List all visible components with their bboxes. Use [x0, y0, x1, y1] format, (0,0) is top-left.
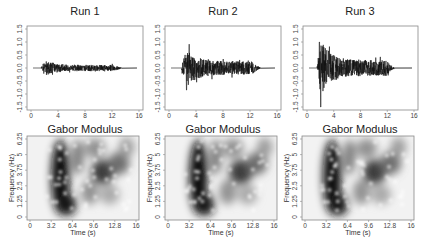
x-tick-label: 0 — [29, 112, 33, 119]
y-tick-label: 0.0 — [154, 63, 161, 72]
panel-title-gabor-3: Gabor Modulus — [322, 123, 398, 135]
y-tick-label: 0.0 — [16, 63, 23, 72]
y-tick-label: 0.0 — [292, 63, 299, 72]
panel-title-run-1: Run 1 — [70, 5, 99, 17]
x-tick-label: 8 — [221, 112, 225, 119]
x-tick-label: 3.2 — [185, 222, 194, 229]
y-tick-label: -1.0 — [154, 88, 161, 100]
y-tick-label: 2.5 — [291, 181, 298, 190]
x-tick-label: 12 — [108, 112, 116, 119]
x-tick-label: 3.2 — [47, 222, 56, 229]
y-tick-label: 0.5 — [154, 50, 161, 59]
y-tick-label: -0.5 — [154, 75, 161, 87]
x-tick-label: 16 — [270, 222, 278, 229]
y-tick-label: 0.5 — [292, 50, 299, 59]
y-tick-label: 1.25 — [291, 195, 298, 208]
x-tick-label: 4 — [56, 112, 60, 119]
gabor-modulus-plot-1: 01.252.53.7556.2503.26.49.612.816Time (s… — [8, 132, 140, 237]
x-axis-label: Time (s) — [70, 229, 95, 237]
y-tick-label: 1.0 — [154, 37, 161, 46]
x-tick-label: 16 — [132, 222, 140, 229]
x-tick-label: 3.2 — [322, 222, 331, 229]
x-tick-label: 16 — [407, 222, 415, 229]
y-tick-label: -1.5 — [154, 101, 161, 113]
x-tick-label: 0 — [305, 112, 309, 119]
x-tick-label: 12.8 — [383, 222, 396, 229]
y-tick-label: 0 — [16, 215, 23, 219]
y-tick-label: -1.0 — [16, 88, 23, 100]
x-axis-label: Time (s) — [345, 229, 370, 237]
y-tick-label: 3.75 — [154, 163, 161, 176]
x-tick-label: 0 — [167, 112, 171, 119]
y-tick-label: 1.5 — [154, 24, 161, 33]
y-tick-label: -1.0 — [292, 88, 299, 100]
x-tick-label: 6.4 — [343, 222, 352, 229]
y-axis-label: Frequency (Hz) — [283, 154, 291, 202]
x-tick-label: 9.6 — [364, 222, 373, 229]
y-tick-label: -1.5 — [292, 101, 299, 113]
x-tick-label: 0 — [28, 222, 32, 229]
x-tick-label: 12 — [384, 112, 392, 119]
panel-title-gabor-1: Gabor Modulus — [47, 123, 123, 135]
x-tick-label: 9.6 — [227, 222, 236, 229]
gabor-modulus-plot-2: 01.252.53.7556.2503.26.49.612.816Time (s… — [146, 132, 278, 237]
y-tick-label: 5 — [154, 152, 161, 156]
y-axis-label: Frequency (Hz) — [8, 154, 16, 202]
y-tick-label: 6.25 — [291, 132, 298, 145]
y-tick-label: 1.5 — [292, 24, 299, 33]
y-tick-label: 1.5 — [16, 24, 23, 33]
x-tick-label: 16 — [410, 112, 418, 119]
x-tick-label: 12 — [246, 112, 254, 119]
figure: Run 1 Run 2 Run 3 Gabor Modulus Gabor Mo… — [0, 0, 435, 246]
y-tick-label: 3.75 — [291, 163, 298, 176]
waveform-plot-1: -1.5-1.0-0.50.00.51.01.50481216 — [16, 24, 143, 119]
panel-title-run-2: Run 2 — [208, 5, 237, 17]
x-tick-label: 8 — [83, 112, 87, 119]
waveform-panels: -1.5-1.0-0.50.00.51.01.50481216-1.5-1.0-… — [16, 24, 418, 119]
x-tick-label: 6.4 — [206, 222, 215, 229]
y-tick-label: -0.5 — [16, 75, 23, 87]
y-tick-label: 0 — [291, 215, 298, 219]
y-tick-label: 0.5 — [16, 50, 23, 59]
x-tick-label: 12.8 — [246, 222, 259, 229]
x-tick-label: 8 — [359, 112, 363, 119]
y-tick-label: 1.0 — [292, 37, 299, 46]
x-axis-label: Time (s) — [208, 229, 233, 237]
y-tick-label: 1.0 — [16, 37, 23, 46]
y-tick-label: 6.25 — [16, 132, 23, 145]
y-tick-label: 1.25 — [154, 195, 161, 208]
x-tick-label: 4 — [332, 112, 336, 119]
x-tick-label: 16 — [273, 112, 281, 119]
y-tick-label: -0.5 — [292, 75, 299, 87]
x-tick-label: 6.4 — [68, 222, 77, 229]
x-tick-label: 12.8 — [108, 222, 121, 229]
y-tick-label: 0 — [154, 215, 161, 219]
x-tick-label: 0 — [166, 222, 170, 229]
y-tick-label: 2.5 — [16, 181, 23, 190]
waveform-plot-2: -1.5-1.0-0.50.00.51.01.50481216 — [154, 24, 281, 119]
y-tick-label: -1.5 — [16, 101, 23, 113]
y-tick-label: 1.25 — [16, 195, 23, 208]
y-tick-label: 6.25 — [154, 132, 161, 145]
y-tick-label: 2.5 — [154, 181, 161, 190]
panel-title-gabor-2: Gabor Modulus — [185, 123, 261, 135]
gabor-modulus-plot-3: 01.252.53.7556.2503.26.49.612.816Time (s… — [283, 132, 415, 237]
x-tick-label: 16 — [135, 112, 143, 119]
y-axis-label: Frequency (Hz) — [146, 154, 154, 202]
y-tick-label: 5 — [16, 152, 23, 156]
x-tick-label: 4 — [194, 112, 198, 119]
panel-title-run-3: Run 3 — [345, 5, 374, 17]
x-tick-label: 9.6 — [89, 222, 98, 229]
x-tick-label: 0 — [303, 222, 307, 229]
spectrogram-panels: 01.252.53.7556.2503.26.49.612.816Time (s… — [8, 132, 415, 237]
waveform-plot-3: -1.5-1.0-0.50.00.51.01.50481216 — [292, 24, 418, 119]
y-tick-label: 5 — [291, 152, 298, 156]
y-tick-label: 3.75 — [16, 163, 23, 176]
